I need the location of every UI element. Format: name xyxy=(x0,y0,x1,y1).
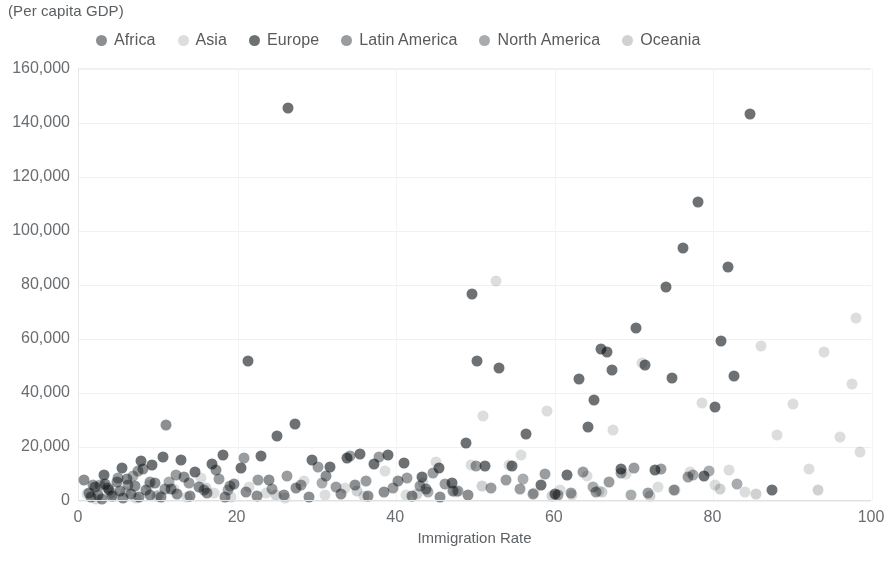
gridline-vertical xyxy=(555,69,556,500)
data-point xyxy=(440,479,451,490)
data-point xyxy=(218,449,229,460)
data-point xyxy=(771,430,782,441)
data-point xyxy=(289,418,300,429)
x-axis-tick-label: 40 xyxy=(386,508,404,526)
data-point xyxy=(630,323,641,334)
data-point xyxy=(280,492,291,503)
y-axis-ticks: 020,00040,00060,00080,000100,000120,0001… xyxy=(0,0,70,562)
x-axis-line xyxy=(78,500,871,501)
data-point xyxy=(516,449,527,460)
data-point xyxy=(116,462,127,473)
x-axis-tick-label: 0 xyxy=(74,508,83,526)
data-point xyxy=(500,474,511,485)
data-point xyxy=(722,261,733,272)
legend-item-europe[interactable]: Europe xyxy=(249,31,319,49)
legend-item-north-america[interactable]: North America xyxy=(479,31,600,49)
data-point xyxy=(562,469,573,480)
legend-item-oceania[interactable]: Oceania xyxy=(622,31,700,49)
data-point xyxy=(478,411,489,422)
data-point xyxy=(847,378,858,389)
data-point xyxy=(402,472,413,483)
data-point xyxy=(541,405,552,416)
data-point xyxy=(175,455,186,466)
data-point xyxy=(253,474,264,485)
data-point xyxy=(697,398,708,409)
data-point xyxy=(472,355,483,366)
data-point xyxy=(242,356,253,367)
chart-legend: AfricaAsiaEuropeLatin AmericaNorth Ameri… xyxy=(96,30,722,50)
legend-item-latin-america[interactable]: Latin America xyxy=(341,31,457,49)
data-point xyxy=(105,487,116,498)
data-point xyxy=(716,336,727,347)
gridline-horizontal xyxy=(79,123,871,124)
data-point xyxy=(200,483,211,494)
y-axis-tick-label: 100,000 xyxy=(12,221,70,239)
data-point xyxy=(238,453,249,464)
data-point xyxy=(131,493,142,504)
data-point xyxy=(709,401,720,412)
data-point xyxy=(476,480,487,491)
y-axis-tick-label: 160,000 xyxy=(12,59,70,77)
data-point xyxy=(835,432,846,443)
data-point xyxy=(91,493,102,504)
y-axis-tick-label: 80,000 xyxy=(21,275,70,293)
data-point xyxy=(144,476,155,487)
data-point xyxy=(703,465,714,476)
data-point xyxy=(480,461,491,472)
gridline-horizontal xyxy=(79,177,871,178)
legend-item-africa[interactable]: Africa xyxy=(96,31,156,49)
data-point xyxy=(316,478,327,489)
data-point xyxy=(494,363,505,374)
gridline-horizontal xyxy=(79,285,871,286)
plot-area xyxy=(78,68,871,500)
gridline-horizontal xyxy=(79,393,871,394)
gridline-horizontal xyxy=(79,447,871,448)
legend-swatch-icon xyxy=(178,35,189,46)
data-point xyxy=(324,461,335,472)
data-point xyxy=(453,485,464,496)
legend-item-label: Latin America xyxy=(359,31,457,49)
data-point xyxy=(189,466,200,477)
y-axis-tick-label: 120,000 xyxy=(12,167,70,185)
data-point xyxy=(692,197,703,208)
data-point xyxy=(112,473,123,484)
legend-swatch-icon xyxy=(96,35,107,46)
data-point xyxy=(813,485,824,496)
gridline-horizontal xyxy=(79,69,871,70)
data-point xyxy=(296,479,307,490)
data-point xyxy=(744,109,755,120)
data-point xyxy=(243,481,254,492)
data-point xyxy=(319,489,330,500)
data-point xyxy=(851,312,862,323)
data-point xyxy=(383,450,394,461)
gridline-horizontal xyxy=(79,339,871,340)
data-point xyxy=(578,466,589,477)
data-point xyxy=(213,474,224,485)
gridline-vertical xyxy=(872,69,873,500)
data-point xyxy=(732,478,743,489)
data-point xyxy=(223,484,234,495)
gridline-vertical xyxy=(396,69,397,500)
y-axis-tick-label: 0 xyxy=(61,491,70,509)
data-point xyxy=(127,470,138,481)
gridline-horizontal xyxy=(79,501,871,502)
data-point xyxy=(460,438,471,449)
data-point xyxy=(354,449,365,460)
data-point xyxy=(767,484,778,495)
data-point xyxy=(161,419,172,430)
data-point xyxy=(540,469,551,480)
legend-item-label: North America xyxy=(497,31,600,49)
data-point xyxy=(678,243,689,254)
legend-item-asia[interactable]: Asia xyxy=(178,31,228,49)
data-point xyxy=(514,484,525,495)
data-point xyxy=(486,482,497,493)
data-point xyxy=(603,477,614,488)
y-axis-tick-label: 20,000 xyxy=(21,437,70,455)
data-point xyxy=(608,425,619,436)
data-point xyxy=(602,346,613,357)
data-point xyxy=(491,275,502,286)
data-point xyxy=(597,487,608,498)
data-point xyxy=(740,487,751,498)
gridline-vertical xyxy=(238,69,239,500)
